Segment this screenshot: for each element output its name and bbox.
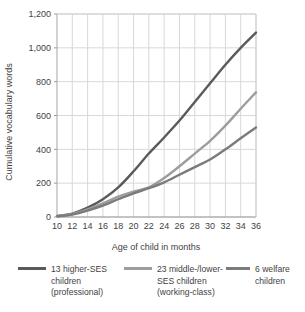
y-tick-label: 1,000 (28, 43, 51, 53)
x-tick-label: 20 (129, 221, 139, 231)
x-tick-label: 14 (83, 221, 93, 231)
legend-label-0-line-0: 13 higher-SES (51, 264, 107, 274)
y-tick-label: 400 (36, 145, 51, 155)
chart-legend: 13 higher-SESchildren(professional)23 mi… (18, 264, 290, 297)
x-tick-label: 24 (159, 221, 169, 231)
x-tick-label: 12 (67, 221, 77, 231)
legend-label-2-line-1: children (255, 276, 285, 286)
y-tick-label: 200 (36, 178, 51, 188)
y-tick-label: 800 (36, 77, 51, 87)
x-axis-title: Age of child in months (112, 242, 201, 252)
legend-label-1-line-1: SES children (157, 276, 207, 286)
y-axis-title: Cumulative vocabulary words (4, 63, 14, 181)
x-tick-label: 16 (98, 221, 108, 231)
y-tick-label: 1,200 (28, 9, 51, 19)
x-tick-label: 26 (174, 221, 184, 231)
vocabulary-growth-chart: 1012141618202224262830323436 02004006008… (0, 0, 305, 312)
x-tick-label: 32 (220, 221, 230, 231)
legend-label-1-line-2: (working-class) (157, 287, 215, 297)
legend-label-1-line-0: 23 middle-/lower- (157, 264, 223, 274)
legend-label-0-line-2: (professional) (51, 287, 103, 297)
chart-canvas: 1012141618202224262830323436 02004006008… (0, 0, 305, 312)
y-tick-label: 0 (46, 212, 51, 222)
legend-label-2-line-0: 6 welfare (255, 264, 290, 274)
x-tick-labels: 1012141618202224262830323436 (52, 221, 261, 231)
x-tick-label: 18 (113, 221, 123, 231)
legend-label-0-line-1: children (51, 276, 81, 286)
y-tick-labels: 02004006008001,0001,200 (28, 9, 57, 222)
y-tick-label: 600 (36, 111, 51, 121)
x-tick-label: 28 (190, 221, 200, 231)
x-tick-label: 22 (144, 221, 154, 231)
x-tick-label: 36 (251, 221, 261, 231)
x-tick-label: 10 (52, 221, 62, 231)
x-tick-label: 30 (205, 221, 215, 231)
x-tick-label: 34 (236, 221, 246, 231)
